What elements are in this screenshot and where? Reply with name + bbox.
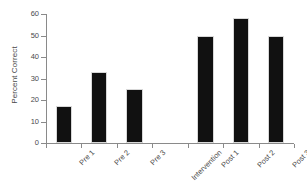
bar	[126, 89, 142, 143]
y-axis-tick-label: 10	[20, 118, 39, 126]
y-axis-tick-label: 20	[20, 96, 39, 104]
bar	[56, 106, 72, 143]
y-axis-tick-label: 30	[20, 75, 39, 83]
y-axis-tick-label-text: 40	[21, 53, 39, 61]
bar	[268, 36, 284, 144]
x-axis-label: Post 2	[255, 148, 276, 169]
x-axis-label: Post 3	[291, 148, 307, 169]
x-axis-tick	[294, 144, 295, 148]
x-axis-label: Pre 1	[77, 148, 96, 167]
y-axis-tick-label-text: 0	[21, 139, 39, 147]
x-axis-label: Post 1	[220, 148, 241, 169]
y-axis-tick-label-text: 50	[21, 32, 39, 40]
y-axis-tick-label: 60	[20, 10, 39, 18]
x-axis-line	[46, 143, 294, 144]
x-axis-label: Pre 2	[112, 148, 131, 167]
y-axis-tick-label-text: 30	[21, 75, 39, 83]
x-axis-labels: Pre 1Pre 2Pre 3InterventionPost 1Post 2P…	[46, 148, 294, 196]
y-axis-tick-label-text: 10	[21, 118, 39, 126]
x-axis-label: Intervention	[189, 148, 223, 182]
x-axis-label: Pre 3	[148, 148, 167, 167]
y-axis-tick-label: 0	[20, 139, 39, 147]
y-axis-tick-label-text: 60	[21, 10, 39, 18]
bar	[91, 72, 107, 143]
bar	[197, 36, 213, 144]
y-axis-tick-label-text: 20	[21, 96, 39, 104]
bars-container	[46, 14, 294, 143]
bar-chart-figure: Percent Correct 0102030405060 Pre 1Pre 2…	[0, 0, 307, 196]
y-axis-tick-label: 40	[20, 53, 39, 61]
y-axis-tick-label: 50	[20, 32, 39, 40]
bar	[233, 18, 249, 143]
